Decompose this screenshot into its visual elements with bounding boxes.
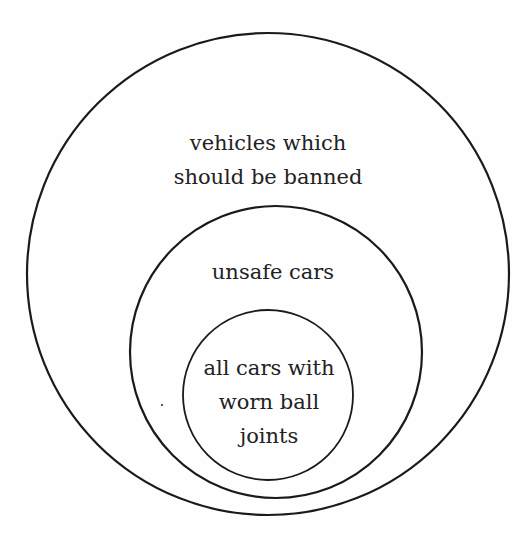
outer-set-label-line-1: vehicles which [189, 131, 346, 155]
middle-set-circle [130, 206, 422, 498]
inner-set-label-line-3: joints [237, 424, 299, 448]
diagram-svg: vehicles which should be banned unsafe c… [0, 0, 530, 541]
outer-set-label-line-2: should be banned [174, 165, 363, 189]
inner-set-label-line-2: worn ball [219, 390, 320, 414]
middle-set-label: unsafe cars [212, 260, 334, 284]
print-speck [161, 404, 163, 406]
euler-diagram: vehicles which should be banned unsafe c… [0, 0, 530, 541]
inner-set-label-line-1: all cars with [203, 356, 334, 380]
